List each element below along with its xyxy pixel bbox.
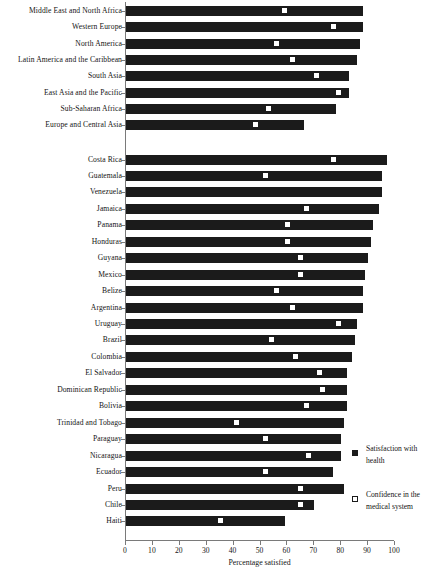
satisfaction-bar (126, 55, 357, 65)
chart-row: Brazil (0, 334, 421, 347)
confidence-marker (336, 321, 341, 326)
category-tick (121, 423, 125, 424)
satisfaction-bar (126, 368, 347, 378)
x-axis-tick-label: 0 (110, 546, 140, 556)
x-axis-tick (394, 541, 395, 545)
x-axis-tick (367, 541, 368, 545)
category-label: Chile (0, 499, 122, 511)
category-label: Mexico (0, 269, 122, 281)
category-label: North America (0, 38, 122, 50)
chart-row: Guatemala (0, 170, 421, 183)
category-tick (121, 505, 125, 506)
category-tick (121, 93, 125, 94)
confidence-marker (331, 157, 336, 162)
category-tick (121, 489, 125, 490)
satisfaction-bar (126, 204, 379, 214)
category-tick (121, 11, 125, 12)
category-tick (121, 291, 125, 292)
category-label: Argentina (0, 302, 122, 314)
category-label: Venezuela (0, 186, 122, 198)
satisfaction-bar (126, 484, 344, 494)
satisfaction-bar (126, 187, 382, 197)
satisfaction-bar (126, 319, 357, 329)
chart-row: Guyana (0, 252, 421, 265)
chart-row: Honduras (0, 236, 421, 249)
category-tick (121, 125, 125, 126)
category-label: Guyana (0, 252, 122, 264)
confidence-marker (274, 288, 279, 293)
confidence-marker (293, 354, 298, 359)
category-tick (121, 192, 125, 193)
chart-row: Ecuador (0, 466, 421, 479)
satisfaction-bar (126, 237, 371, 247)
chart-row: Paraguay (0, 433, 421, 446)
chart-row: Haiti (0, 515, 421, 528)
category-label: Uruguay (0, 318, 122, 330)
chart-row: Belize (0, 285, 421, 298)
chart-row: Dominican Republic (0, 384, 421, 397)
chart-row: Costa Rica (0, 154, 421, 167)
confidence-marker (298, 255, 303, 260)
x-axis-tick-label: 30 (191, 546, 221, 556)
category-tick (121, 258, 125, 259)
category-tick (121, 44, 125, 45)
x-axis-tick (152, 541, 153, 545)
chart-row: Panama (0, 219, 421, 232)
category-label: Jamaica (0, 203, 122, 215)
satisfaction-bar (126, 39, 360, 49)
confidence-marker (336, 90, 341, 95)
satisfaction-bar (126, 516, 285, 526)
top-trim (0, 0, 421, 2)
confidence-marker (306, 453, 311, 458)
chart-row: Latin America and the Caribbean (0, 54, 421, 67)
satisfaction-bar (126, 120, 304, 130)
category-label: Haiti (0, 515, 122, 527)
category-label: Trinidad and Tobago (0, 417, 122, 429)
confidence-marker (290, 57, 295, 62)
satisfaction-bar (126, 253, 368, 263)
satisfaction-bar (126, 286, 363, 296)
confidence-marker (263, 469, 268, 474)
x-axis-tick-label: 100 (379, 546, 409, 556)
category-label: Bolivia (0, 400, 122, 412)
chart-row: Jamaica (0, 203, 421, 216)
confidence-marker (266, 106, 271, 111)
chart-row: North America (0, 38, 421, 51)
category-label: South Asia (0, 70, 122, 82)
confidence-marker (263, 173, 268, 178)
satisfaction-bar (126, 22, 363, 32)
category-tick (121, 472, 125, 473)
x-axis-tick-label: 10 (137, 546, 167, 556)
category-label: Costa Rica (0, 154, 122, 166)
x-axis-tick (206, 541, 207, 545)
category-label: East Asia and the Pacific (0, 87, 122, 99)
category-label: Honduras (0, 236, 122, 248)
confidence-marker (285, 239, 290, 244)
category-label: Brazil (0, 334, 122, 346)
chart-row: Bolivia (0, 400, 421, 413)
open-square-icon (352, 496, 358, 502)
x-axis-tick (260, 541, 261, 545)
legend-label-satisfaction: Satisfaction with health (366, 443, 421, 466)
confidence-marker (298, 272, 303, 277)
category-tick (121, 225, 125, 226)
category-tick (121, 308, 125, 309)
confidence-marker (282, 8, 287, 13)
chart-row: Sub-Saharan Africa (0, 103, 421, 116)
category-label: Colombia (0, 351, 122, 363)
confidence-marker (253, 122, 258, 127)
confidence-marker (263, 436, 268, 441)
category-tick (121, 275, 125, 276)
category-label: Paraguay (0, 433, 122, 445)
x-axis-tick-label: 40 (218, 546, 248, 556)
category-label: Guatemala (0, 170, 122, 182)
x-axis-tick (313, 541, 314, 545)
satisfaction-bar (126, 467, 333, 477)
satisfaction-bar (126, 335, 355, 345)
chart-row: East Asia and the Pacific (0, 87, 421, 100)
confidence-marker (298, 502, 303, 507)
chart-row: Western Europe (0, 21, 421, 34)
category-tick (121, 160, 125, 161)
confidence-marker (290, 305, 295, 310)
x-axis-tick (286, 541, 287, 545)
